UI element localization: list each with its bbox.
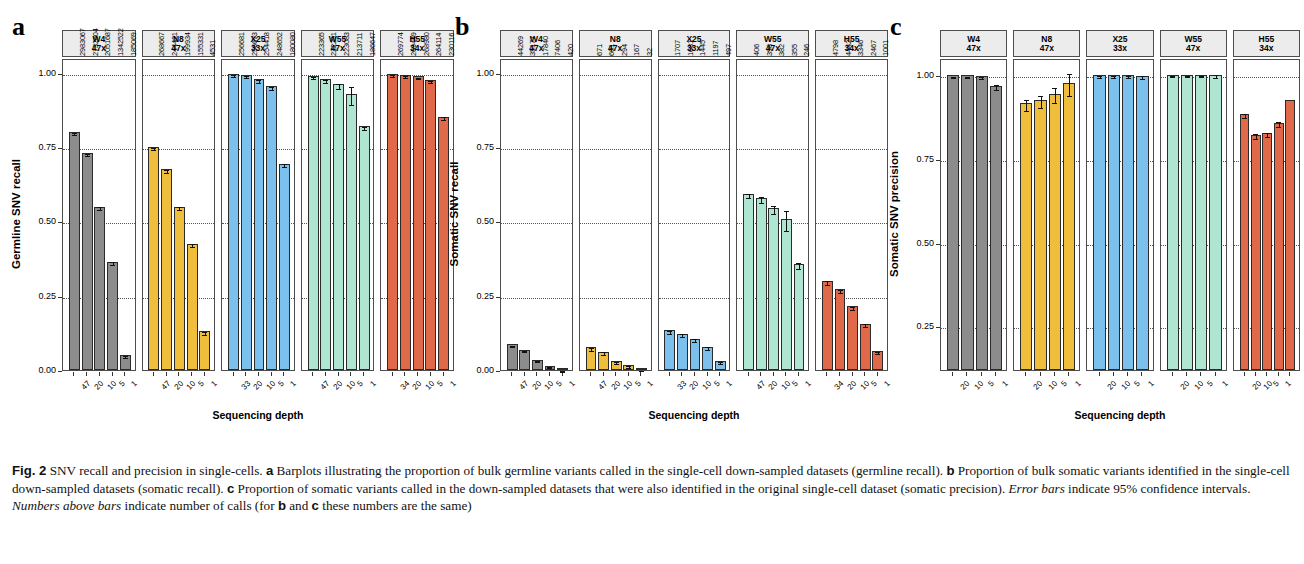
x-tick-mark bbox=[1172, 372, 1173, 376]
x-tick-label: 10 bbox=[973, 379, 986, 392]
bar bbox=[94, 207, 105, 370]
error-bar-cap bbox=[560, 372, 565, 373]
error-bar-cap bbox=[1265, 137, 1270, 138]
bar-count-label: 155331 bbox=[196, 32, 205, 56]
x-tick-mark bbox=[1278, 372, 1279, 376]
x-tick-mark bbox=[511, 372, 512, 376]
bar-count-label: 186647 bbox=[368, 32, 377, 56]
x-tick-mark bbox=[1200, 372, 1201, 376]
bar-count-label: 7406 bbox=[553, 40, 562, 56]
gridline bbox=[501, 298, 572, 299]
facet-pane-W55: 223365222291223083213711186647 bbox=[301, 59, 375, 371]
error-bar-cap bbox=[692, 339, 697, 340]
bar bbox=[557, 368, 568, 370]
x-tick-label: 34 bbox=[833, 379, 846, 392]
error-bar-cap bbox=[1126, 76, 1131, 77]
bar-count-label: 1001 bbox=[881, 40, 890, 56]
bar-count-label: 406 bbox=[752, 44, 761, 56]
x-tick-mark bbox=[1266, 372, 1267, 376]
error-bar-cap bbox=[535, 362, 540, 363]
x-tick-label: 5 bbox=[869, 379, 879, 389]
y-tick-mark bbox=[58, 371, 62, 372]
bar bbox=[266, 86, 277, 370]
error-bar-cap bbox=[1038, 96, 1043, 97]
bar bbox=[279, 164, 290, 371]
x-tick-mark bbox=[73, 372, 74, 376]
x-tick-mark bbox=[640, 372, 641, 376]
x-tick-label: 47 bbox=[160, 379, 173, 392]
x-tick-label: 47 bbox=[319, 379, 332, 392]
y-axis-label: Germline SNV recall bbox=[10, 58, 22, 370]
caption-bold-b2: b bbox=[278, 498, 286, 513]
error-bar-cap bbox=[680, 334, 685, 335]
bar-count-label: 44269 bbox=[516, 36, 525, 56]
bar-count-label: 269449 bbox=[409, 32, 418, 56]
error-bar-cap bbox=[589, 348, 594, 349]
error-bar-cap bbox=[994, 85, 999, 86]
x-tick-label: 33 bbox=[239, 379, 252, 392]
x-tick-label: 5 bbox=[1206, 379, 1216, 389]
gridline bbox=[1234, 77, 1299, 78]
facet-group-H55: H5534x269774269449268980264114230116 bbox=[380, 30, 454, 371]
error-bar-cap bbox=[428, 83, 433, 84]
x-tick-mark bbox=[852, 372, 853, 376]
x-tick-mark bbox=[124, 372, 125, 376]
error-bar-cap bbox=[97, 207, 102, 208]
facet-pane-N8: 67160129416732 bbox=[579, 59, 652, 371]
bar bbox=[636, 368, 647, 370]
y-tick-label: 0.25 bbox=[24, 291, 56, 301]
x-tick-label: 5 bbox=[117, 379, 127, 389]
bar bbox=[400, 75, 411, 370]
bar-count-label: 223083 bbox=[342, 32, 351, 56]
x-tick-label: 20 bbox=[93, 379, 106, 392]
bar-count-label: 244421 bbox=[170, 32, 179, 56]
facet-coverage: 33x bbox=[1113, 44, 1127, 53]
bar-count-label: 256673 bbox=[250, 32, 259, 56]
y-tick-label: 1.00 bbox=[24, 68, 56, 78]
x-tick-mark bbox=[707, 372, 708, 376]
figure-caption: Fig. 2 SNV recall and precision in singl… bbox=[12, 462, 1294, 515]
bar-count-label: 382 bbox=[777, 44, 786, 56]
error-bar-cap bbox=[838, 293, 843, 294]
y-tick-label: 0.50 bbox=[902, 238, 934, 248]
error-bar-cap bbox=[1253, 139, 1258, 140]
panel-a: aGermline SNV recall0.000.250.500.751.00… bbox=[12, 8, 462, 456]
x-tick-label: 47 bbox=[518, 379, 531, 392]
facet-pane-W55 bbox=[1160, 59, 1227, 371]
gridline bbox=[501, 75, 572, 76]
error-bar-cap bbox=[1140, 79, 1145, 80]
bar bbox=[254, 79, 265, 370]
x-tick-label: 1 bbox=[646, 379, 656, 389]
x-tick-label: 5 bbox=[791, 379, 801, 389]
x-tick-label: 47 bbox=[754, 379, 767, 392]
facet-pane-N8 bbox=[1013, 59, 1080, 371]
bar bbox=[387, 74, 398, 370]
error-bar-cap bbox=[1185, 77, 1190, 78]
bar-count-label: 398 bbox=[765, 44, 774, 56]
x-tick-mark bbox=[1113, 372, 1114, 376]
bar bbox=[677, 334, 688, 370]
error-bar-cap bbox=[177, 210, 182, 211]
x-tick-label: 1 bbox=[1220, 379, 1230, 389]
caption-text-8: these numbers are the same) bbox=[319, 498, 472, 513]
error-bar bbox=[1041, 96, 1042, 109]
error-bar-cap bbox=[784, 211, 789, 212]
x-tick-mark bbox=[981, 372, 982, 376]
error-bar-cap bbox=[72, 135, 77, 136]
x-tick-mark bbox=[404, 372, 405, 376]
bar-count-label: 3346 bbox=[856, 40, 865, 56]
x-tick-label: 20 bbox=[688, 379, 701, 392]
error-bar bbox=[1055, 88, 1056, 103]
bar bbox=[320, 79, 331, 370]
x-tick-label: 10 bbox=[1046, 379, 1059, 392]
bar-count-label: 213711 bbox=[355, 33, 364, 56]
error-bar-cap bbox=[256, 80, 261, 81]
bar bbox=[425, 80, 436, 370]
bar-count-label: 2467 bbox=[869, 40, 878, 56]
error-bar-cap bbox=[796, 269, 801, 270]
x-tick-label: 1 bbox=[1283, 379, 1293, 389]
facet-group-H55: H5534x bbox=[1233, 30, 1300, 371]
error-bar bbox=[786, 211, 787, 232]
x-tick-label: 1 bbox=[1000, 379, 1010, 389]
x-tick-mark bbox=[628, 372, 629, 376]
